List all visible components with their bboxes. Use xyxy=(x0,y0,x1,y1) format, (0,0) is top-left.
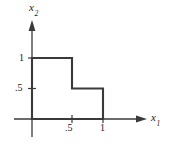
y-axis-arrowhead xyxy=(29,20,36,31)
l-shaped-region xyxy=(32,58,103,119)
axis-ticks xyxy=(28,58,103,123)
y-axis-label-subscript: 2 xyxy=(34,9,38,18)
y-axis-label: x2 xyxy=(29,2,38,16)
x-axis-label: x1 xyxy=(151,112,160,126)
y-tick-label-1: 1 xyxy=(19,53,24,63)
x-axis-arrowhead xyxy=(136,116,147,123)
x-tick-label-0-5: .5 xyxy=(65,123,73,133)
plot-canvas xyxy=(0,0,171,151)
y-tick-label-0-5: .5 xyxy=(15,83,23,93)
x-tick-label-1: 1 xyxy=(100,123,105,133)
figure-container: x2 x1 1 .5 .5 1 xyxy=(0,0,171,151)
x-axis-label-subscript: 1 xyxy=(156,119,160,128)
